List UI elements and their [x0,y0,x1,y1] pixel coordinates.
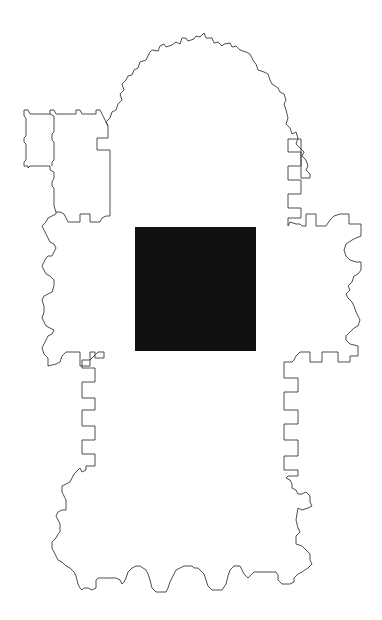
nave-right-buttresses [284,362,298,478]
choir-right-buttresses [288,139,310,226]
crossing-block [135,227,256,351]
sacristy-annex-divider [50,114,54,166]
nave-left-buttresses [82,352,104,470]
nave-lower-right [278,478,312,584]
west-front-outline [76,566,278,592]
floor-plan-canvas [0,0,382,620]
sacristy-annex-outline [97,118,110,216]
north-transept-outline [42,212,110,366]
apse-outline [110,33,310,178]
sacristy-annex-rooms [24,110,108,212]
nave-lower-left [52,468,86,576]
south-transept-outline [284,214,361,362]
